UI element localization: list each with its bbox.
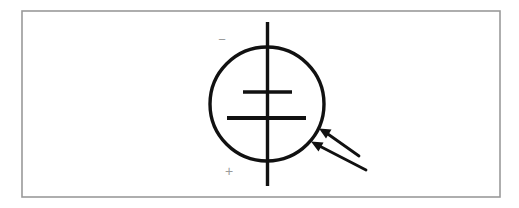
positive-polarity-mark: + [225,163,233,179]
negative-polarity-mark: − [218,32,226,47]
figure-canvas: Photovoltaic (solar) cell circuit symbol… [0,0,519,208]
photovoltaic-cell-diagram: − + [0,0,519,208]
outer-border [22,11,500,197]
